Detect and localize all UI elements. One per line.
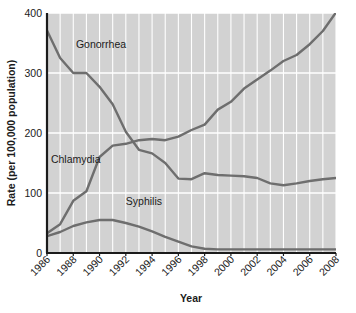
x-axis-title: Year (180, 292, 202, 304)
y-tick-label: 400 (24, 7, 42, 19)
line-chart: 0100200300400 19861988199019921994199619… (0, 0, 356, 313)
series-label-chlamydia: Chlamydia (51, 153, 101, 165)
series-label-gonorrhea: Gonorrhea (76, 38, 126, 50)
y-tick-label: 300 (24, 67, 42, 79)
chart-figure: 0100200300400 19861988199019921994199619… (0, 0, 356, 313)
y-tick-label: 100 (24, 187, 42, 199)
series-label-syphilis: Syphilis (126, 195, 162, 207)
y-tick-label: 200 (24, 127, 42, 139)
y-axis-title: Rate (per 100,000 population) (5, 60, 17, 206)
